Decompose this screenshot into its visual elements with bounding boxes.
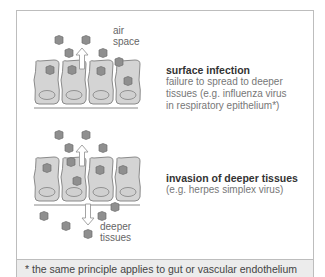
virus-icon — [115, 58, 123, 67]
virus-icon — [46, 66, 54, 75]
virus-icon — [99, 144, 107, 153]
virus-icon — [65, 49, 73, 58]
deep-invasion-description: invasion of deeper tissues (e.g. herpes … — [166, 172, 298, 196]
virus-icon — [65, 144, 73, 153]
virus-icon — [97, 67, 105, 76]
epithelial-cell — [115, 157, 140, 201]
arrow-down-icon — [82, 204, 94, 225]
virus-icon — [119, 166, 127, 175]
virus-icon — [98, 212, 106, 221]
virus-icon — [96, 166, 104, 175]
epithelial-cell — [88, 157, 113, 201]
footnote: * the same principle applies to gut or v… — [16, 259, 314, 277]
virus-icon — [68, 66, 76, 75]
virus-icon — [62, 222, 70, 231]
virus-icon — [43, 164, 51, 173]
virus-icon — [111, 203, 119, 212]
virus-icon — [99, 49, 107, 58]
deeper-tissues-label: deeper tissues — [100, 221, 131, 243]
air-space-label: air space — [113, 25, 140, 47]
virus-icon — [82, 131, 90, 140]
epithelium-diagram — [0, 0, 325, 277]
surface-infection-description: surface infection failure to spread to d… — [166, 64, 287, 112]
virus-icon — [55, 131, 63, 140]
surface-infection-title: surface infection — [166, 64, 287, 76]
virus-icon — [84, 230, 92, 239]
virus-icon — [73, 177, 81, 186]
virus-icon — [82, 36, 90, 45]
virus-icon — [67, 158, 75, 167]
virus-icon — [124, 77, 132, 86]
virus-icon — [55, 36, 63, 45]
virus-icon — [40, 212, 48, 221]
deep-invasion-title: invasion of deeper tissues — [166, 172, 298, 184]
